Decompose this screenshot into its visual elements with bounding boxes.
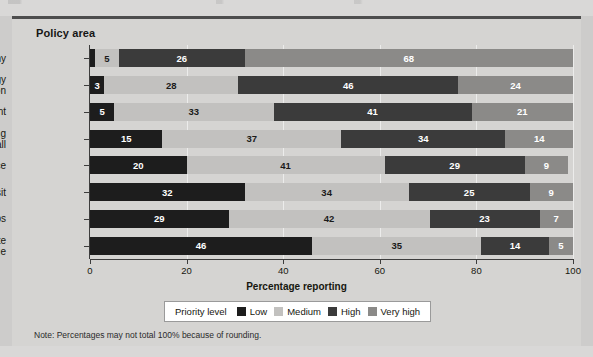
bar-segment-high[interactable]: 46	[238, 76, 458, 94]
bar-segment-high[interactable]: 25	[409, 183, 530, 201]
y-axis-label-climate-change[interactable]: Climatechange	[0, 235, 6, 257]
bar-value-label: 21	[517, 106, 528, 117]
bar-segment-low[interactable]: 20	[90, 156, 187, 174]
y-axis-tick	[84, 58, 90, 59]
bar-value-label: 14	[534, 133, 545, 144]
bar-segment-low[interactable]: 29	[90, 210, 229, 228]
bar-segment-high[interactable]: 34	[341, 130, 505, 148]
legend-label-medium: Medium	[287, 306, 321, 317]
bar-row: 152668	[90, 49, 573, 67]
y-axis-label-line: change	[0, 246, 6, 257]
y-axis-label-environment[interactable]: Environment	[0, 106, 6, 117]
y-axis-label-line: Green jobs	[0, 213, 6, 224]
y-axis-label-green-jobs[interactable]: Green jobs	[0, 213, 6, 224]
bar-segment-medium[interactable]: 42	[229, 210, 430, 228]
legend-item-low[interactable]: Low	[237, 306, 267, 317]
bar-value-label: 3	[95, 80, 100, 91]
bar-value-label: 29	[154, 213, 165, 224]
bar-row: 3234259	[90, 183, 573, 201]
bar-row: 15373414	[90, 130, 573, 148]
bar-value-label: 34	[418, 133, 429, 144]
bar-value-label: 34	[321, 187, 332, 198]
legend: Priority level Low Medium High Very high	[164, 301, 431, 322]
bar-value-label: 41	[367, 106, 378, 117]
bar-value-label: 68	[403, 53, 414, 64]
x-axis-tick	[90, 259, 91, 264]
bar-value-label: 32	[162, 187, 173, 198]
bar-segment-high[interactable]: 26	[119, 49, 245, 67]
bar-segment-medium[interactable]: 34	[245, 183, 409, 201]
bar-value-label: 15	[121, 133, 132, 144]
gridline	[573, 45, 574, 259]
bar-segment-medium[interactable]: 41	[187, 156, 385, 174]
bar-value-label: 46	[343, 80, 354, 91]
x-axis-tick-label: 0	[87, 265, 92, 276]
figure-note: Note: Percentages may not total 100% bec…	[34, 330, 261, 340]
bar-value-label: 29	[449, 160, 460, 171]
legend-swatch-medium-icon	[274, 307, 283, 316]
bar-segment-medium[interactable]: 33	[114, 103, 273, 121]
bar-segment-low[interactable]: 32	[90, 183, 245, 201]
x-axis-tick-label: 80	[471, 265, 482, 276]
plot-area: 1526683284624533412115373414204129932342…	[90, 45, 573, 259]
bar-value-label: 37	[247, 133, 258, 144]
y-axis-label-line: Public transit	[0, 187, 6, 198]
bar-value-label: 5	[99, 106, 104, 117]
bar-value-label: 14	[510, 240, 521, 251]
bar-segment-high[interactable]: 14	[481, 237, 549, 255]
bar-segment-high[interactable]: 29	[385, 156, 525, 174]
bar-row: 5334121	[90, 103, 573, 121]
x-axis-line	[90, 259, 573, 260]
legend-label-high: High	[341, 306, 361, 317]
bar-segment-veryhigh[interactable]: 7	[540, 210, 573, 228]
y-axis-label-social-justice[interactable]: Social justice	[0, 160, 6, 171]
bar-segment-veryhigh[interactable]: 9	[530, 183, 573, 201]
bar-segment-medium[interactable]: 37	[162, 130, 341, 148]
bar-value-label: 7	[554, 213, 559, 224]
bar-segment-veryhigh[interactable]: 68	[245, 49, 573, 67]
bar-segment-veryhigh[interactable]: 21	[472, 103, 573, 121]
bar-value-label: 33	[189, 106, 200, 117]
bar-segment-high[interactable]: 23	[430, 210, 540, 228]
bar-value-label: 35	[391, 240, 402, 251]
bar-segment-medium[interactable]: 28	[104, 76, 238, 94]
bar-value-label: 9	[544, 160, 549, 171]
bar-segment-veryhigh[interactable]: 5	[549, 237, 573, 255]
y-axis-tick	[84, 139, 90, 140]
y-axis-label-energy-conservation[interactable]: Energyconservation	[0, 74, 6, 96]
legend-label-very-high: Very high	[381, 306, 421, 317]
bar-value-label: 26	[176, 53, 187, 64]
bar-value-label: 28	[166, 80, 177, 91]
y-axis-labels: EconomyEnergyconservationEnvironmentHous…	[0, 45, 6, 259]
legend-item-medium[interactable]: Medium	[274, 306, 321, 317]
y-axis-label-economy[interactable]: Economy	[0, 53, 6, 64]
bar-segment-veryhigh[interactable]: 14	[505, 130, 573, 148]
bar-segment-veryhigh[interactable]: 24	[458, 76, 573, 94]
y-axis-label-line: Climate	[0, 235, 6, 246]
y-axis-tick	[84, 219, 90, 220]
x-axis-tick-label: 60	[375, 265, 386, 276]
bar-segment-low[interactable]: 3	[90, 76, 104, 94]
bar-segment-medium[interactable]: 5	[95, 49, 119, 67]
y-axis-tick	[84, 112, 90, 113]
bar-value-label: 41	[280, 160, 291, 171]
bar-segment-low[interactable]: 5	[90, 103, 114, 121]
y-axis-label-housing-for-all[interactable]: Housingfor all	[0, 128, 6, 150]
bar-segment-veryhigh[interactable]: 9	[525, 156, 568, 174]
y-axis-label-line: Energy	[0, 74, 6, 85]
y-axis-tick	[84, 192, 90, 193]
y-axis-label-line: Housing	[0, 128, 6, 139]
bar-row: 2041299	[90, 156, 573, 174]
x-axis-tick	[380, 259, 381, 264]
scan-top-strip	[0, 0, 593, 16]
legend-swatch-very-high-icon	[368, 307, 377, 316]
bar-segment-low[interactable]: 46	[90, 237, 312, 255]
y-axis-label-public-transit[interactable]: Public transit	[0, 187, 6, 198]
bar-segment-low[interactable]: 15	[90, 130, 162, 148]
legend-label-low: Low	[250, 306, 267, 317]
bar-segment-high[interactable]: 41	[274, 103, 472, 121]
legend-item-very-high[interactable]: Very high	[368, 306, 421, 317]
legend-item-high[interactable]: High	[328, 306, 361, 317]
scan-bottom-strip	[0, 346, 593, 357]
bar-segment-medium[interactable]: 35	[312, 237, 481, 255]
